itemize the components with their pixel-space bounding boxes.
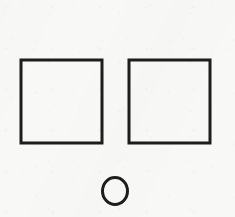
right-square [129, 60, 210, 143]
figure-canvas [0, 0, 235, 217]
shape-drawing [0, 0, 235, 217]
bottom-circle [103, 178, 128, 205]
left-square [21, 60, 102, 143]
